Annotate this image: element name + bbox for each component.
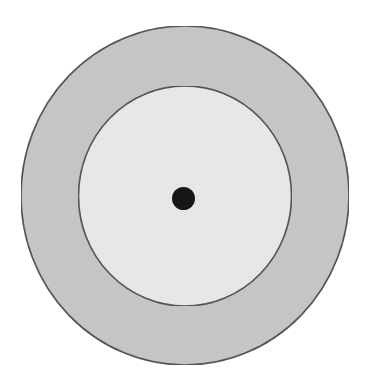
concentric-circles-diagram — [0, 0, 366, 386]
center-dot — [172, 187, 195, 210]
